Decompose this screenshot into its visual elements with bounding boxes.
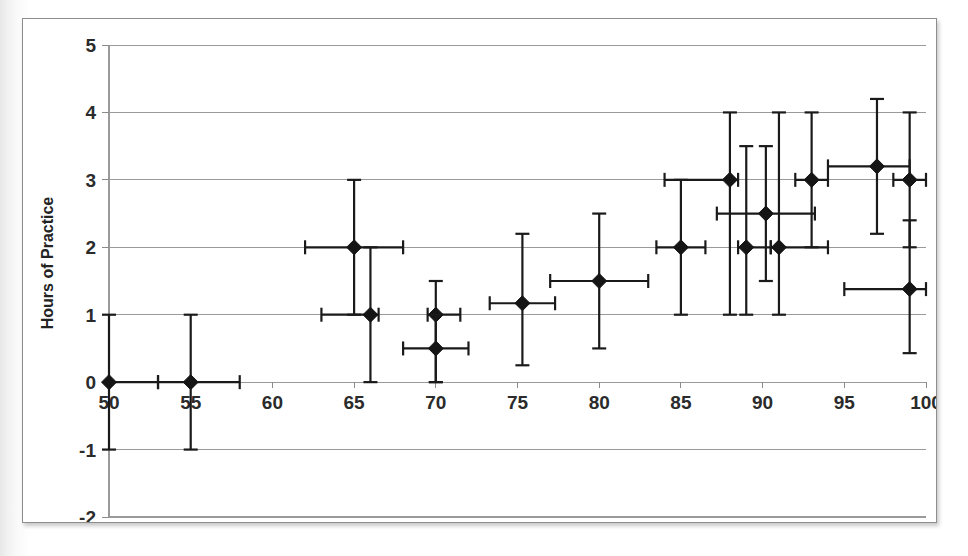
data-point-group xyxy=(428,281,461,382)
data-point-marker xyxy=(869,159,884,174)
data-point-marker xyxy=(347,240,362,255)
data-point-marker xyxy=(183,375,198,390)
data-point-marker xyxy=(902,282,917,297)
plot-surface: 543210-1-250556065707580859095100Hours o… xyxy=(23,19,936,522)
data-point-marker xyxy=(515,296,530,311)
x-tick-label: 65 xyxy=(344,392,366,413)
data-point-group xyxy=(305,180,403,315)
data-point-marker xyxy=(363,307,378,322)
data-point-marker xyxy=(592,274,607,289)
data-point-marker xyxy=(771,240,786,255)
y-tick-label: -1 xyxy=(79,440,96,461)
data-point-group xyxy=(158,315,240,450)
data-point-marker xyxy=(739,240,754,255)
x-tick-label: 75 xyxy=(507,392,529,413)
y-tick-label: 3 xyxy=(85,170,96,191)
data-point-group xyxy=(828,99,910,234)
data-point-group xyxy=(403,315,468,382)
x-tick-label: 90 xyxy=(752,392,773,413)
x-tick-label: 95 xyxy=(834,392,856,413)
scatter-plot-with-error-bars: 543210-1-250556065707580859095100Hours o… xyxy=(23,19,936,522)
y-tick-label: 5 xyxy=(85,35,96,56)
data-point-group xyxy=(656,180,705,315)
x-tick-label: 100 xyxy=(910,392,936,413)
data-point-group xyxy=(717,146,815,281)
data-point-marker xyxy=(804,172,819,187)
x-tick-label: 60 xyxy=(262,392,283,413)
data-point-group xyxy=(550,214,648,349)
y-tick-label: 0 xyxy=(85,372,96,393)
data-point-group xyxy=(321,247,378,382)
y-tick-label: 1 xyxy=(85,305,96,326)
x-tick-label: 85 xyxy=(670,392,692,413)
data-point-marker xyxy=(758,206,773,221)
data-point-group xyxy=(490,234,555,365)
data-point-marker xyxy=(428,341,443,356)
data-point-marker xyxy=(722,172,737,187)
data-point-group xyxy=(844,220,926,353)
chart-frame: 543210-1-250556065707580859095100Hours o… xyxy=(22,18,937,523)
x-tick-label: 70 xyxy=(425,392,446,413)
y-tick-label: -2 xyxy=(79,507,96,522)
data-point-group xyxy=(795,112,828,247)
y-tick-label: 2 xyxy=(85,237,96,258)
data-point-marker xyxy=(902,172,917,187)
y-axis-title: Hours of Practice xyxy=(39,197,56,330)
x-tick-label: 80 xyxy=(589,392,610,413)
data-point-marker xyxy=(673,240,688,255)
y-tick-label: 4 xyxy=(85,102,96,123)
data-point-marker xyxy=(102,375,117,390)
data-point-group xyxy=(102,315,159,450)
